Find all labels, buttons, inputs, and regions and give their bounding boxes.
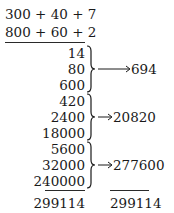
left-total-rule bbox=[45, 190, 85, 191]
partial-product: 240000 bbox=[5, 174, 85, 188]
group-sum: 277600 bbox=[113, 158, 165, 172]
partial-product: 14 bbox=[5, 46, 85, 60]
arrow-icon bbox=[98, 65, 132, 73]
partial-product: 2400 bbox=[5, 110, 85, 124]
partial-product: 18000 bbox=[5, 126, 85, 140]
right-total: 299114 bbox=[110, 196, 162, 210]
right-total-rule bbox=[110, 190, 149, 191]
multiplier: 800 + 60 + 2 bbox=[5, 25, 96, 39]
group-sum: 20820 bbox=[113, 110, 156, 124]
arrow-icon bbox=[98, 161, 114, 169]
right-brace-icon bbox=[86, 93, 96, 141]
right-brace-icon bbox=[86, 141, 96, 189]
partial-product: 420 bbox=[5, 94, 85, 108]
left-total: 299114 bbox=[5, 196, 85, 210]
partial-product: 32000 bbox=[5, 158, 85, 172]
multiplicand: 300 + 40 + 7 bbox=[5, 7, 96, 21]
top-rule bbox=[5, 42, 85, 43]
right-brace-icon bbox=[86, 45, 96, 93]
partial-product: 5600 bbox=[5, 142, 85, 156]
partial-product: 80 bbox=[5, 62, 85, 76]
partial-product: 600 bbox=[5, 78, 85, 92]
group-sum: 694 bbox=[131, 62, 157, 76]
arrow-icon bbox=[98, 113, 114, 121]
